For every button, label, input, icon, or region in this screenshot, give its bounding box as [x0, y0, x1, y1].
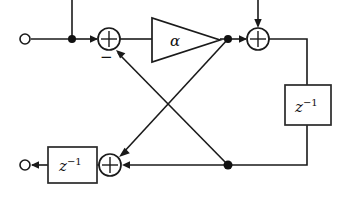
branch-dot-after-gain: [224, 35, 232, 43]
gain-triangle[interactable]: [152, 18, 220, 62]
gain-label: α: [170, 32, 180, 50]
arrowhead-into-output-terminal: [31, 161, 39, 168]
output-terminal[interactable]: [20, 160, 30, 170]
arrowhead-into-adder-bottom-diagonal: [119, 148, 130, 157]
branch-dot-input: [68, 35, 76, 43]
input-terminal[interactable]: [20, 34, 30, 44]
arrowhead-into-adder-top-left-minus: [116, 50, 125, 58]
wire-adder-top-right-to-delay-right: [269, 39, 307, 85]
wire-diagonal-forward-to-adder-bottom: [122, 39, 228, 154]
signal-flow-diagram: α − z−1 z−1: [0, 0, 349, 204]
delay-bottom-z: z: [58, 157, 67, 175]
delay-right-exponent: −1: [303, 97, 318, 108]
wire-delay-right-to-bottom-rail: [228, 125, 307, 165]
diagram-canvas: α − z−1 z−1: [0, 0, 349, 204]
arrowhead-into-adder-top-left: [90, 35, 98, 42]
branch-dot-bottom-feedback: [224, 161, 233, 170]
arrowhead-into-adder-top-right: [239, 35, 247, 42]
wire-diagonal-feedback-to-adder-top-left: [118, 53, 228, 165]
adder-top-left-minus-sign: −: [100, 48, 113, 66]
arrowhead-top-into-adder-top-right: [254, 19, 261, 28]
delay-right-z: z: [294, 98, 303, 116]
delay-bottom-exponent: −1: [67, 156, 82, 167]
arrowhead-into-adder-bottom-right-side: [122, 161, 130, 168]
